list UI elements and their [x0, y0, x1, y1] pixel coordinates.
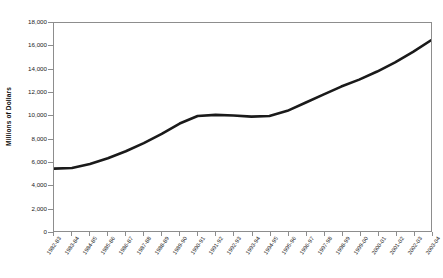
- data-line-svg: [54, 23, 431, 231]
- plot-area: [53, 22, 432, 232]
- y-axis-title-text: Millions of Dollars: [5, 87, 12, 146]
- y-tick-mark: [48, 45, 53, 46]
- data-series-line: [54, 40, 431, 168]
- y-tick-label: 18,000: [28, 19, 47, 25]
- y-tick-label: 10,000: [28, 112, 47, 118]
- y-tick-label: 12,000: [28, 89, 47, 95]
- y-tick-label: 6,000: [32, 159, 47, 165]
- y-tick-mark: [48, 69, 53, 70]
- y-tick-mark: [48, 22, 53, 23]
- y-tick-mark: [48, 92, 53, 93]
- y-tick-label: 2,000: [32, 206, 47, 212]
- y-tick-mark: [48, 162, 53, 163]
- y-tick-label: 16,000: [28, 42, 47, 48]
- y-tick-mark: [48, 209, 53, 210]
- chart-figure: Millions of Dollars 18,00016,00014,00012…: [0, 0, 443, 278]
- y-tick-mark: [48, 139, 53, 140]
- y-tick-label: 0: [44, 229, 47, 235]
- y-tick-label: 8,000: [32, 136, 47, 142]
- x-axis-tick-labels: 1982-831983-841984-851985-861986-871987-…: [0, 236, 443, 278]
- y-tick-label: 4,000: [32, 182, 47, 188]
- y-tick-label: 14,000: [28, 66, 47, 72]
- y-tick-mark: [48, 115, 53, 116]
- y-axis-tick-labels: 18,00016,00014,00012,00010,0008,0006,000…: [14, 15, 50, 239]
- y-tick-mark: [48, 185, 53, 186]
